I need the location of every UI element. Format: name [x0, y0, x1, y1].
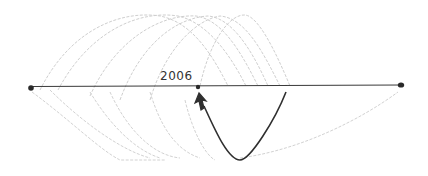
year-label: 2006 — [160, 69, 193, 83]
timeline-start-dot — [28, 85, 34, 91]
faint-spiral-arcs — [40, 15, 290, 100]
timeline-end-dot — [398, 82, 404, 87]
marker-2006-dot — [196, 85, 200, 89]
highlight-curve — [204, 92, 286, 160]
timeline-line — [32, 85, 402, 87]
arrow-up-icon — [195, 93, 206, 110]
timeline-spiral-diagram — [0, 0, 428, 176]
faint-lower-arcs — [32, 90, 398, 160]
